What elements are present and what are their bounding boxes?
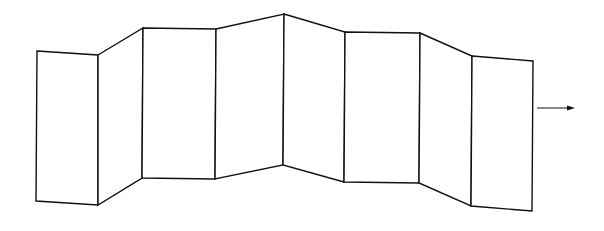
screen-panel-5 [283, 14, 345, 182]
screen-panel-3 [142, 28, 216, 179]
screen-panel-8 [471, 56, 533, 211]
screen-panel-1 [36, 51, 98, 205]
screen-panel-4 [215, 14, 284, 179]
arrow-right-icon [567, 106, 575, 111]
folding-screen-diagram [0, 0, 604, 231]
screen-panel-2 [98, 28, 143, 205]
screen-panel-7 [419, 33, 472, 206]
panels-group [36, 14, 533, 211]
screen-panel-6 [344, 32, 420, 183]
direction-arrow [537, 106, 575, 111]
